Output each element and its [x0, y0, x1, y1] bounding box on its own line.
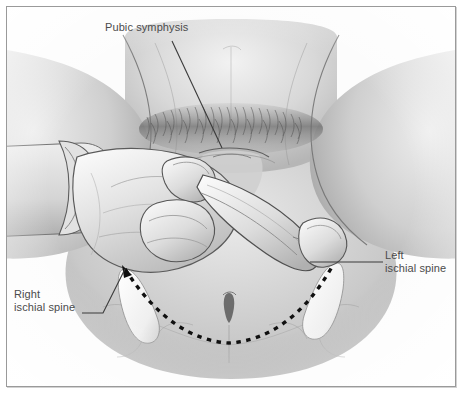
label-right-ischial-spine-line1: Right — [14, 288, 75, 301]
label-left-ischial-spine-line2: ischial spine — [385, 262, 446, 275]
label-left-ischial-spine: Left ischial spine — [385, 249, 446, 275]
label-pubic-symphysis: Pubic symphysis — [105, 21, 188, 34]
pelvic-exam-illustration — [7, 7, 455, 386]
figure-container: Pubic symphysis Left ischial spine Right… — [0, 0, 464, 395]
label-left-ischial-spine-line1: Left — [385, 249, 446, 262]
illustration-canvas — [7, 7, 455, 386]
label-pubic-symphysis-text: Pubic symphysis — [105, 21, 188, 33]
label-right-ischial-spine-line2: ischial spine — [14, 301, 75, 314]
label-right-ischial-spine: Right ischial spine — [14, 288, 75, 314]
